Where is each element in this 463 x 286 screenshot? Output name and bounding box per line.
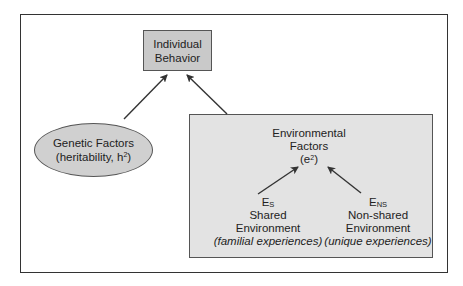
shared-to-environment-arrow-icon	[258, 167, 298, 194]
nonshared-to-environment-arrow-icon	[328, 167, 361, 193]
environment-to-behavior-arrow-icon	[187, 75, 227, 114]
genetic-to-behavior-arrow-icon	[124, 75, 167, 119]
arrows-layer	[0, 0, 463, 286]
